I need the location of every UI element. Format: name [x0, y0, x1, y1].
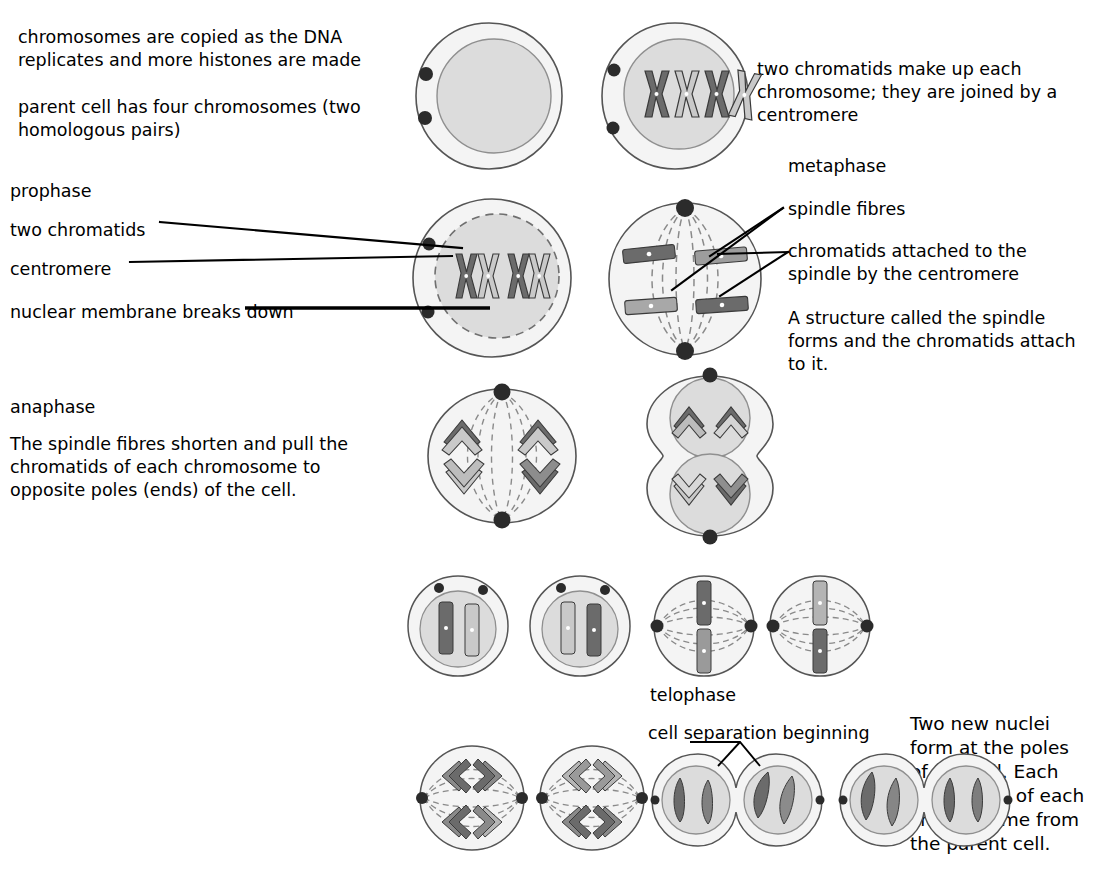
centriole-icon [839, 796, 848, 805]
centriole-icon [703, 530, 718, 545]
label-metaphase: metaphase [788, 155, 886, 178]
centriole-icon [494, 512, 511, 529]
cell-telophase-right [838, 742, 1018, 858]
centriole-icon [434, 583, 444, 593]
nucleus-left [850, 766, 918, 834]
leader-centromere [130, 256, 452, 262]
label-anaphase: anaphase [10, 396, 95, 419]
label-interphase-copy: chromosomes are copied as the DNA replic… [18, 26, 388, 72]
cell-pair-anaphase [414, 742, 650, 858]
centriole-icon [636, 792, 648, 804]
centriole-icon [861, 620, 874, 633]
cell-pair-spindle [650, 572, 876, 680]
centriole-icon [478, 585, 488, 595]
centriole-icon [536, 792, 548, 804]
spindle-cell [651, 576, 758, 676]
prophase-leader-lines [0, 190, 620, 350]
centriole-icon [767, 620, 780, 633]
cell-anaphase [414, 386, 590, 526]
centriole-icon [608, 64, 621, 77]
label-anaphase-body: The spindle fibres shorten and pull the … [10, 433, 410, 501]
daughter-cell [408, 576, 508, 676]
anaphase-cell [416, 746, 528, 850]
centriole-icon [419, 67, 433, 81]
cell-interphase-plain [404, 16, 574, 176]
metaphase-leader-lines [640, 198, 800, 318]
label-two-chromatids-note: two chromatids make up each chromosome; … [757, 58, 1107, 126]
centriole-icon [745, 620, 758, 633]
cell-membrane [540, 746, 644, 850]
chromosome-rod-dark [697, 581, 711, 625]
chromosome-rod-dark [439, 602, 453, 654]
centriole-icon [418, 111, 432, 125]
brace-line [690, 742, 760, 766]
chromosome-rod-light [697, 629, 711, 673]
chromosome-rod-dark [813, 629, 827, 673]
cell-membrane [428, 389, 576, 523]
centriole-icon [556, 583, 566, 593]
label-parent-cell: parent cell has four chromosomes (two ho… [18, 96, 398, 142]
centriole-icon [416, 792, 428, 804]
centriole-icon [600, 585, 610, 595]
cell-interphase-replicated [590, 16, 760, 176]
chromosome-rod-light [813, 581, 827, 625]
cell-membrane [420, 746, 524, 850]
nucleus-right [932, 766, 1000, 834]
nucleus [420, 591, 496, 667]
centriole-icon [703, 368, 718, 383]
centriole-icon [651, 796, 660, 805]
leader-chromatids-attached-b [720, 252, 788, 296]
centriole-icon [607, 122, 620, 135]
centriole-icon [516, 792, 528, 804]
spindle-cell [767, 576, 874, 676]
brace-line [718, 742, 740, 766]
cell-early-telophase [625, 372, 795, 540]
label-telophase: telophase [650, 684, 736, 707]
leader-spindle-fibres-a [672, 208, 783, 290]
centriole-icon [816, 796, 825, 805]
centriole-icon [1004, 796, 1013, 805]
leader-chromatids-attached-a [718, 252, 788, 254]
nucleus [542, 591, 618, 667]
label-chromatids-attached: chromatids attached to the spindle by th… [788, 240, 1088, 286]
centriole-icon [651, 620, 664, 633]
centriole-icon [676, 342, 694, 360]
label-spindle-fibres: spindle fibres [788, 198, 905, 221]
chromosome-rod-light [465, 604, 479, 656]
nucleus [437, 39, 551, 153]
centriole-icon [494, 384, 511, 401]
leader-spindle-fibres-b [710, 208, 783, 256]
daughter-cell [530, 576, 630, 676]
cell-separation-brace [688, 740, 808, 782]
cell-pair-daughter-nuclei [404, 572, 640, 680]
anaphase-cell [536, 746, 648, 850]
chromosome-rod-light [561, 602, 575, 654]
chromosome-rod-dark [587, 604, 601, 656]
leader-two-chromatids [160, 222, 462, 248]
label-spindle-structure: A structure called the spindle forms and… [788, 307, 1098, 375]
